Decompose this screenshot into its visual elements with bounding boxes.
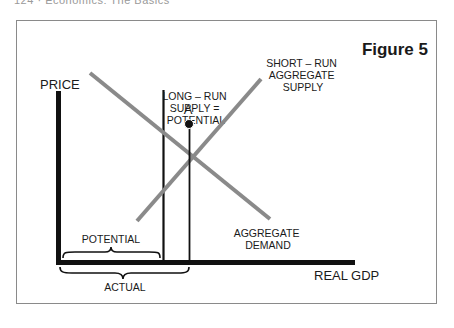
- equilibrium-point: [185, 120, 194, 129]
- actual-brace: [60, 267, 189, 279]
- actual-label: ACTUAL: [104, 281, 146, 293]
- potential-label: POTENTIAL: [82, 233, 141, 245]
- figure-title: Figure 5: [362, 40, 428, 59]
- potential-brace: [63, 247, 160, 258]
- long-run-supply-label: LONG – RUN SUPPLY = POTENTIAL: [162, 90, 229, 126]
- short-run-supply-label: SHORT – RUN AGGREGATE SUPPLY: [266, 57, 340, 93]
- point-a-label: A: [184, 102, 193, 117]
- x-axis-label: REAL GDP: [314, 268, 379, 283]
- ad-as-diagram: Figure 5 PRICE REAL GDP LONG – RUN SUPPL…: [0, 0, 454, 328]
- aggregate-demand-label: AGGREGATE DEMAND: [234, 227, 303, 251]
- y-axis-label: PRICE: [40, 77, 80, 92]
